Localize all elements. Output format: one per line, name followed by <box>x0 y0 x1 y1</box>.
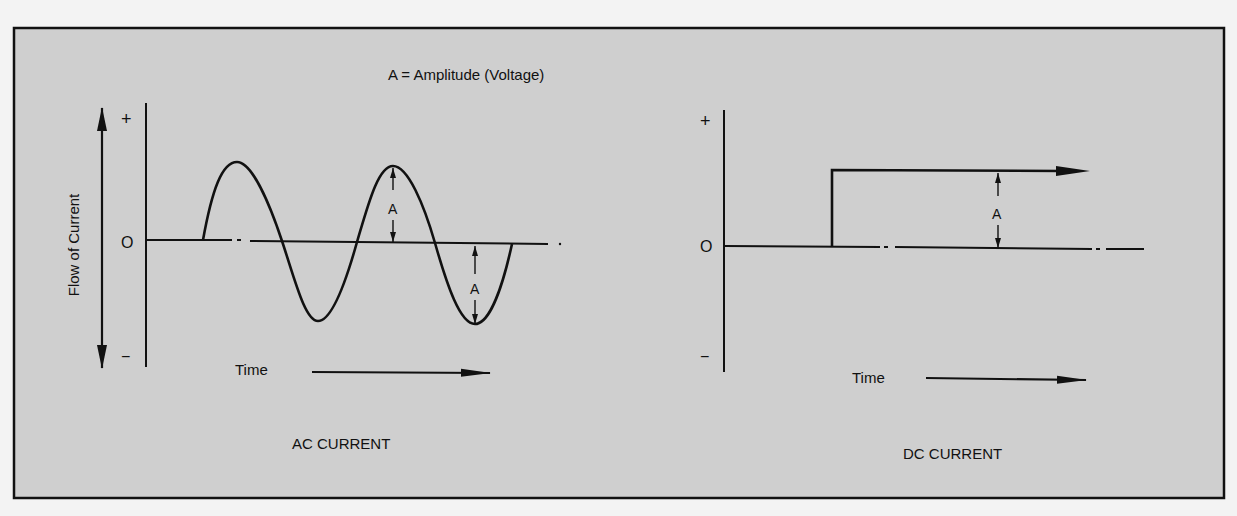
dc-minus-label: − <box>700 348 709 365</box>
dc-zero-label: O <box>700 238 712 255</box>
ac-zero-label: O <box>121 234 133 251</box>
ac-time-arrow <box>312 372 490 373</box>
dc-plus-label: + <box>700 111 711 131</box>
dc-time-label: Time <box>852 369 885 386</box>
ac-current-title: AC CURRENT <box>292 435 390 452</box>
amplitude-legend: A = Amplitude (Voltage) <box>388 66 544 83</box>
ac-time-label: Time <box>235 361 268 378</box>
y-axis-label: Flow of Current <box>65 193 82 296</box>
dc-current-title: DC CURRENT <box>903 445 1002 462</box>
ac-plus-label: + <box>121 109 132 129</box>
figure-frame <box>14 28 1224 498</box>
ac-amplitude-label-lower: A <box>470 281 480 297</box>
ac-amplitude-label-upper: A <box>388 201 398 217</box>
dc-amplitude-label: A <box>992 206 1002 222</box>
ac-dc-current-diagram: A = Amplitude (Voltage) Flow of Current … <box>0 0 1237 516</box>
ac-minus-label: − <box>121 348 130 365</box>
